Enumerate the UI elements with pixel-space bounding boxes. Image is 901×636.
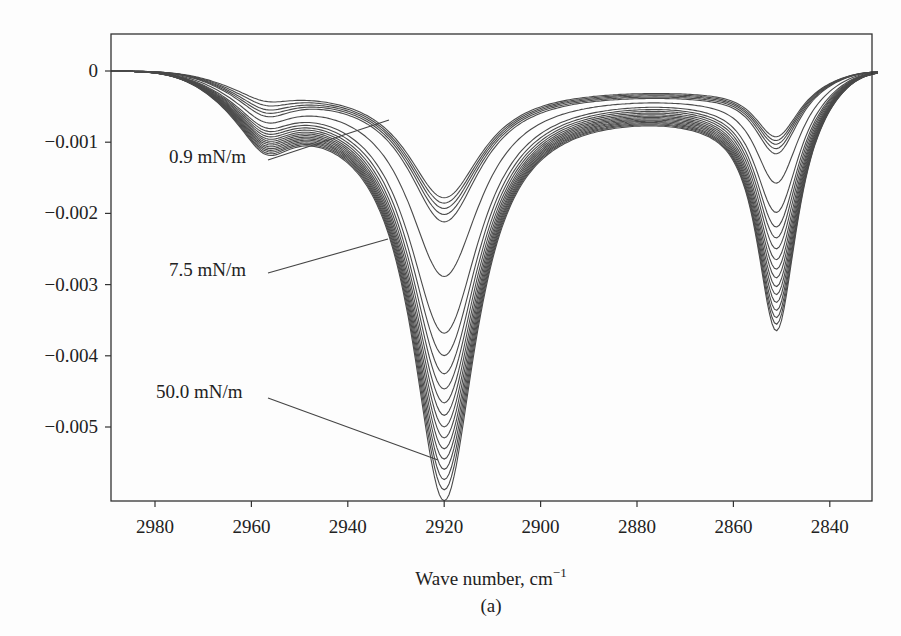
spectrum-line [112,71,878,356]
x-tick-label: 2920 [425,516,463,537]
x-tick-label: 2900 [522,516,560,537]
panel-label: (a) [480,595,501,617]
y-axis: 0−0.001−0.002−0.003−0.004−0.005 [45,60,111,437]
annotation-leader-line [268,398,438,460]
x-tick-label: 2960 [232,516,270,537]
y-tick-label: −0.004 [45,345,99,366]
annotations: 0.9 mN/m7.5 mN/m50.0 mN/m [156,120,438,460]
spectra-curves [112,71,878,501]
x-tick-label: 2980 [136,516,174,537]
x-tick-label: 2940 [329,516,367,537]
x-tick-label: 2880 [618,516,656,537]
annotation-leader-line [268,239,388,273]
annotation-label: 50.0 mN/m [156,381,243,402]
annotation-label: 0.9 mN/m [169,146,246,167]
y-tick-label: −0.001 [45,131,98,152]
y-tick-label: 0 [89,60,99,81]
x-tick-label: 2840 [811,516,849,537]
x-axis-title: Wave number, cm−1 [415,565,566,589]
x-axis: 29802960294029202900288028602840 [136,501,849,537]
y-tick-label: −0.002 [45,202,98,223]
x-tick-label: 2860 [714,516,752,537]
annotation-label: 7.5 mN/m [169,259,246,280]
spectrum-line [112,71,878,501]
y-tick-label: −0.005 [45,416,98,437]
y-tick-label: −0.003 [45,274,98,295]
ir-spectra-chart: 0−0.001−0.002−0.003−0.004−0.005 29802960… [0,0,901,636]
